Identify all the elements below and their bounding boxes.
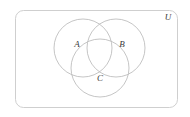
venn-diagram-canvas: A B C U: [0, 0, 190, 117]
set-label-b: B: [119, 39, 125, 49]
set-label-a: A: [73, 39, 80, 49]
universal-set-rectangle: [16, 11, 178, 108]
venn-diagram-figure: A B C U: [0, 0, 190, 117]
universal-set-label: U: [165, 12, 172, 22]
set-label-c: C: [97, 73, 104, 83]
